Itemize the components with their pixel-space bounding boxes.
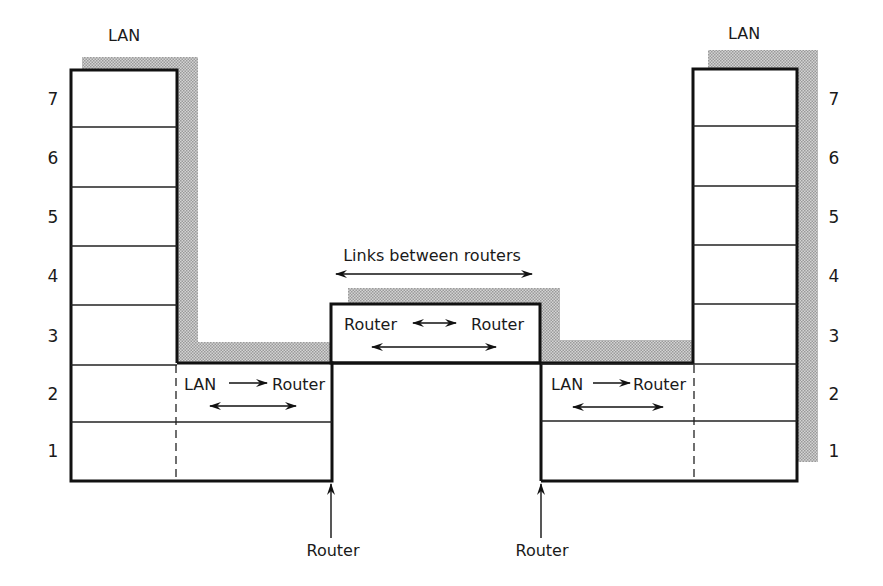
left-segment-router-label: Router	[272, 375, 325, 394]
right-lan-stack	[541, 69, 797, 481]
center-left-router-label: Router	[344, 315, 397, 334]
layer-number: 6	[48, 148, 59, 168]
layer-number: 1	[829, 441, 840, 461]
layer-number: 4	[829, 266, 840, 286]
left-segment-lan-label: LAN	[184, 375, 216, 394]
links-between-routers-label: Links between routers	[343, 246, 521, 265]
center-right-router-label: Router	[471, 315, 524, 334]
osi-router-diagram: LAN LAN Links between routers Router Rou…	[0, 0, 883, 586]
layer-number: 5	[829, 207, 840, 227]
right-layer-numbers: 7 6 5 4 3 2 1	[829, 89, 840, 461]
layer-number: 3	[48, 326, 59, 346]
layer-number: 7	[48, 89, 59, 109]
layer-number: 4	[48, 266, 59, 286]
right-lan-label: LAN	[728, 24, 760, 43]
left-lan-label: LAN	[108, 26, 140, 45]
layer-number: 1	[48, 441, 59, 461]
layer-number: 5	[48, 207, 59, 227]
layer-number: 6	[829, 148, 840, 168]
right-segment-lan-label: LAN	[551, 375, 583, 394]
layer-number: 2	[48, 384, 59, 404]
right-segment-router-label: Router	[633, 375, 686, 394]
left-layer-numbers: 7 6 5 4 3 2 1	[48, 89, 59, 461]
bottom-right-router-label: Router	[515, 541, 568, 560]
layer-number: 7	[829, 89, 840, 109]
bottom-left-router-label: Router	[306, 541, 359, 560]
layer-number: 2	[829, 384, 840, 404]
left-lan-stack	[71, 70, 332, 481]
layer-number: 3	[829, 326, 840, 346]
